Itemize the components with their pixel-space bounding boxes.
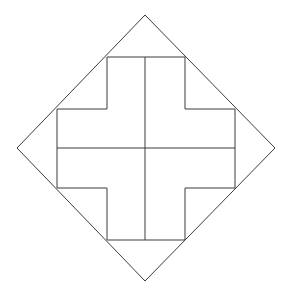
geometric-figure	[0, 0, 291, 297]
figure-container	[0, 0, 291, 297]
